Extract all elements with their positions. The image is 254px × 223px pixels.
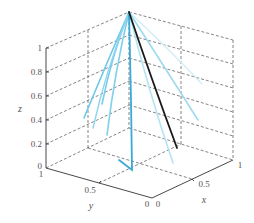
svg-text:0: 0 [156,199,161,209]
axes [46,48,233,198]
grid [46,12,233,183]
svg-text:1: 1 [39,169,44,179]
svg-text:0.8: 0.8 [31,67,43,77]
svg-text:1: 1 [238,160,243,170]
svg-text:1: 1 [38,43,43,53]
series-cyan-right-faint [129,12,202,84]
series-black-trajectory [129,12,177,148]
y-tick-labels: 1 0.5 0 [39,169,150,209]
y-axis-label: y [88,200,94,211]
x-tick-labels: 0 0.5 1 [156,160,243,209]
svg-text:0: 0 [145,199,150,209]
svg-text:0.2: 0.2 [31,139,42,149]
series-cyan-left-3 [107,12,129,135]
series-cyan-left-2 [102,12,129,104]
svg-text:0.4: 0.4 [31,115,43,125]
svg-text:0.5: 0.5 [198,179,210,189]
svg-text:0.5: 0.5 [84,185,96,195]
3d-line-plot: 1 0.8 0.6 0.4 0.2 0 1 0.5 0 0 0.5 1 z y … [0,0,254,223]
x-axis-label: x [201,194,207,205]
z-axis-label: z [17,103,22,114]
z-tick-labels: 1 0.8 0.6 0.4 0.2 0 [31,43,43,171]
data-lines [84,12,202,170]
svg-text:0.6: 0.6 [31,91,43,101]
